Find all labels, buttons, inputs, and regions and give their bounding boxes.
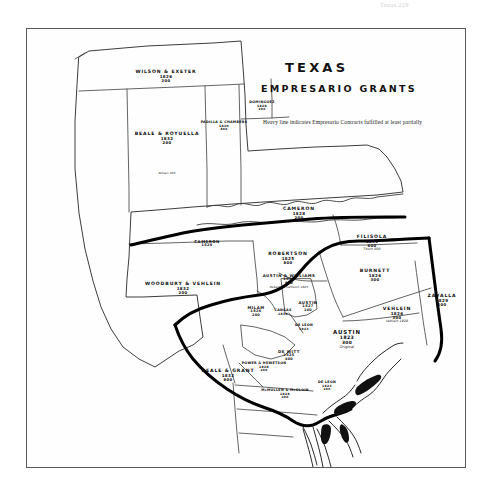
- division-beale-royuella-east: [127, 89, 129, 212]
- grant-note: Robertson Leftwich 1825: [263, 286, 316, 289]
- grant-label-deleon-coast: DE LEON1824200: [318, 381, 336, 391]
- grant-label-zavalla: ZAVALLA1829500: [427, 294, 456, 307]
- grant-family-count: 500: [427, 303, 456, 307]
- map-title: TEXAS: [285, 60, 348, 75]
- division-burnett-west: [319, 251, 343, 317]
- grant-label-wilson-200: Wilson 200: [158, 172, 175, 175]
- grant-label-austin-little-colony: AUSTIN1827100: [298, 301, 317, 313]
- grant-label-austin-williams: AUSTIN & WILLIAMS1831800Robertson Leftwi…: [263, 274, 316, 289]
- grant-family-count: 800: [201, 128, 248, 131]
- division-zavalla-west: [415, 261, 427, 345]
- map-stage: TEXAS EMPRESARIO GRANTS Heavy line indic…: [27, 29, 465, 467]
- grant-family-count: 200: [135, 79, 196, 83]
- grant-year: 1824: [295, 328, 313, 331]
- grant-label-beale-royuella: BEALE & ROYUELLA1832200: [135, 132, 200, 145]
- grant-family-count: 200: [249, 108, 275, 111]
- grant-label-cangas: CANGAS1830: [274, 309, 291, 316]
- border-diagonal-nw: [75, 53, 85, 59]
- grant-label-milam: MILAM1826200: [247, 306, 264, 318]
- grant-family-count: 200: [247, 314, 264, 318]
- bay-fill-3: [321, 424, 331, 444]
- grant-family-count: 800: [201, 378, 254, 382]
- division-padilla-east: [239, 85, 241, 205]
- grant-label-austin-main: AUSTIN1823300Original: [333, 330, 361, 349]
- grant-family-count: 200: [283, 216, 315, 220]
- grant-family-count: 200: [261, 396, 309, 399]
- grant-label-vehlein: VEHLEIN1826300Vehlein 1828: [383, 307, 411, 324]
- grant-note: Vehlein 1828: [383, 320, 411, 323]
- grant-family-count: 200: [135, 141, 200, 145]
- texas-grants-map-svg: [27, 29, 465, 467]
- grant-family-count: 800: [268, 261, 308, 265]
- grant-label-padilla-chambers: PADILLA & CHAMBERS1830800: [201, 121, 248, 131]
- grant-note: Thorn 600: [357, 248, 387, 251]
- grant-label-burnett: BURNETT1826300: [360, 269, 390, 282]
- coastal-tail-2: [303, 429, 313, 467]
- map-subtitle: EMPRESARIO GRANTS: [261, 83, 417, 94]
- grant-note: Wilson 200: [158, 172, 175, 175]
- legend-note: Heavy line indicates Empresario Contract…: [263, 119, 431, 127]
- grant-label-filisola: FILISOLA1831600Thorn 600: [357, 235, 387, 252]
- map-page-frame: TEXAS EMPRESARIO GRANTS Heavy line indic…: [26, 28, 466, 468]
- grant-label-dewitt: DE WITT1825400: [278, 350, 300, 362]
- grant-label-dominguez: DOMINGUEZ1828200: [249, 101, 275, 111]
- grant-label-deleon: DE LEON1824: [295, 324, 313, 331]
- grant-family-count: 200: [145, 291, 221, 295]
- grant-family-count: 200: [242, 369, 287, 372]
- grant-label-woodbury-vehlein: WOODBURY & VEHLEIN1832200: [145, 282, 221, 295]
- bay-fill-4: [340, 424, 349, 442]
- grant-label-power-hewetson: POWER & HEWETSON1828200: [242, 362, 287, 372]
- division-woodbury-east: [253, 241, 258, 295]
- division-wilson-exeter-south: [79, 84, 244, 91]
- scan-page-header: Texas 229: [0, 2, 495, 16]
- grant-label-cameron-west: CAMERON1828: [194, 240, 219, 248]
- grant-family-count: 200: [318, 388, 336, 391]
- division-south-lower-3: [239, 433, 293, 437]
- grant-family-count: 300: [360, 278, 390, 282]
- grant-note: Original: [333, 346, 361, 350]
- division-padilla-west: [205, 86, 207, 207]
- grant-label-mcmullen-mcgloin: McMULLEN & McGLOIN1828200: [261, 389, 309, 399]
- grant-label-robertson: ROBERTSON1825800: [268, 252, 308, 265]
- grant-label-cameron-1828: CAMERON1828200: [283, 207, 315, 220]
- grant-family-count: 100: [298, 309, 317, 313]
- grant-year: 1830: [274, 313, 291, 316]
- coastline-detail: [351, 359, 401, 409]
- grant-year: 1828: [194, 244, 219, 248]
- grant-label-wilson-exeter: WILSON & EXETER1826200: [135, 70, 196, 83]
